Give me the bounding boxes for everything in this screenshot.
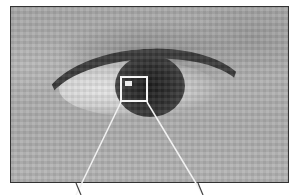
callout-line-left [76,102,121,195]
callout-line-right [147,102,203,195]
callout-lines [0,0,299,195]
